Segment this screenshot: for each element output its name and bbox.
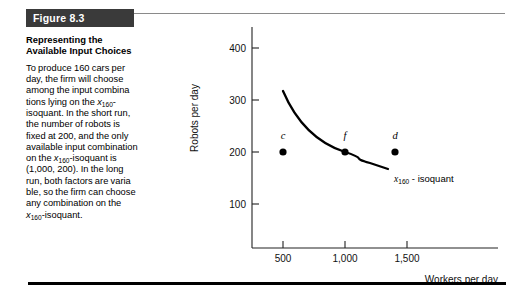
x-tick-label-1000: 1,000 [332, 253, 357, 264]
x-tick-label-1500: 1,500 [394, 253, 419, 264]
figure-caption-column: Figure 8.3 Representing the Available In… [26, 9, 138, 221]
data-point-label-f: f [344, 130, 349, 141]
y-tick-label-300: 300 [229, 95, 246, 106]
data-point-f [341, 148, 348, 155]
data-point-label-d: d [392, 130, 398, 141]
y-axis-title: Robots per day [189, 84, 200, 152]
data-point-c [279, 148, 286, 155]
figure-caption-body: To produce 160 cars per day, the firm wi… [26, 63, 138, 221]
bottom-divider [28, 282, 506, 285]
figure-title-line-2: Available Input Choices [26, 45, 138, 56]
isoquant-chart-svg: 400 300 200 100 500 1,000 1,500 Robots p… [180, 6, 510, 291]
x-tick-label-500: 500 [275, 253, 292, 264]
y-tick-label-400: 400 [229, 43, 246, 54]
y-tick-label-100: 100 [229, 199, 246, 210]
data-point-label-c: c [281, 130, 286, 141]
chart-plot-area: 400 300 200 100 500 1,000 1,500 Robots p… [180, 6, 510, 291]
isoquant-curve [283, 91, 388, 169]
figure-title-line-1: Representing the [26, 34, 138, 45]
y-tick-label-200: 200 [229, 147, 246, 158]
data-point-d [391, 148, 398, 155]
figure-number-banner: Figure 8.3 [26, 9, 134, 27]
figure-title: Representing the Available Input Choices [26, 34, 138, 57]
figure-panel: Figure 8.3 Representing the Available In… [0, 0, 513, 296]
isoquant-annotation: x160 - isoquant [393, 173, 454, 185]
